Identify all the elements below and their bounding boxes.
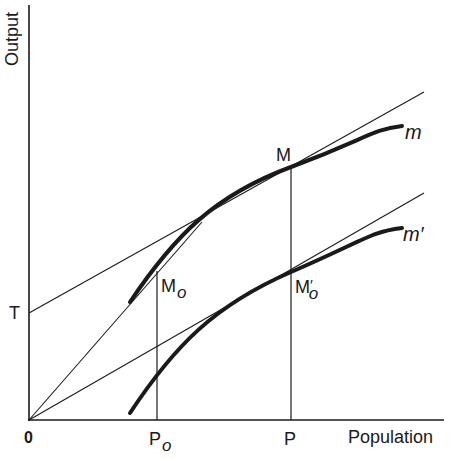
x-axis-label: Population (348, 428, 433, 446)
tangent-line-from-T (29, 92, 424, 313)
label-P0-main: P (149, 429, 161, 449)
label-P0-subscript: o (162, 436, 171, 455)
ray-origin-to-M0 (29, 222, 202, 420)
y-axis-label: Output (1, 4, 23, 74)
label-M0-prime-subscript: o (309, 284, 318, 303)
label-M0: Mo (161, 277, 186, 295)
curve-m-prime (130, 228, 402, 413)
label-M: M (276, 146, 291, 164)
label-M0-main: M (161, 276, 176, 296)
diagram-figure: Output Population 0 T Po P M Mo M′o m m′ (0, 0, 452, 461)
label-T: T (9, 304, 20, 322)
label-curve-m: m (405, 122, 422, 142)
label-P0: Po (149, 430, 171, 448)
label-M0-subscript: o (177, 283, 186, 302)
label-M0-prime: M′o (295, 278, 318, 296)
label-M0-prime-main: M (295, 277, 310, 297)
label-P: P (284, 430, 296, 448)
label-curve-m-prime: m′ (403, 224, 423, 244)
diagram-canvas (0, 0, 452, 461)
origin-label: 0 (24, 430, 33, 446)
